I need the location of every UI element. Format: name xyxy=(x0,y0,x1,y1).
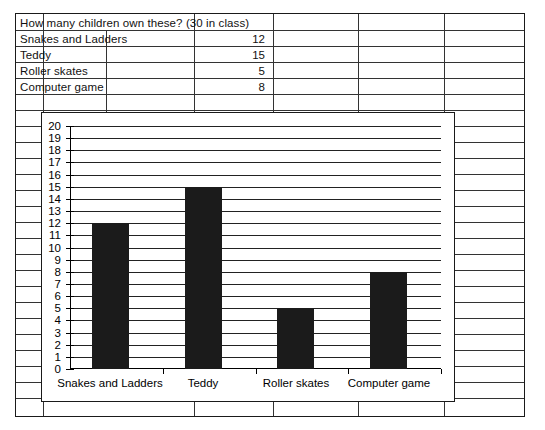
y-axis-tick-label: 4 xyxy=(55,315,61,327)
y-axis-tick-label: 5 xyxy=(55,303,61,315)
y-axis-tick: 19 xyxy=(66,138,74,139)
x-axis-category-label: Computer game xyxy=(348,377,430,389)
table-row-value: 12 xyxy=(180,33,265,45)
x-axis-tick xyxy=(163,369,164,374)
y-axis-tick-label: 3 xyxy=(55,328,61,340)
y-axis-tick: 3 xyxy=(66,333,74,334)
gridline xyxy=(70,150,441,151)
grid-row-line xyxy=(16,46,524,47)
y-axis-tick-label: 10 xyxy=(48,243,61,255)
y-axis-tick: 10 xyxy=(66,248,74,249)
grid-row-line xyxy=(16,30,524,31)
x-axis-category-label: Teddy xyxy=(188,377,219,389)
x-axis-tick xyxy=(348,369,349,374)
gridline xyxy=(70,187,441,188)
grid-row-line xyxy=(16,62,524,63)
grid-row-line xyxy=(16,78,524,79)
y-axis-tick-label: 13 xyxy=(48,206,61,218)
grid-row-line xyxy=(16,94,524,95)
gridline xyxy=(70,162,441,163)
y-axis-tick: 15 xyxy=(66,187,74,188)
y-axis-tick: 13 xyxy=(66,211,74,212)
y-axis-tick-label: 1 xyxy=(55,352,61,364)
y-axis-tick: 5 xyxy=(66,308,74,309)
y-axis-tick: 7 xyxy=(66,284,74,285)
y-axis-tick-label: 20 xyxy=(48,121,61,133)
worksheet-page: How many children own these? (30 in clas… xyxy=(0,0,545,430)
y-axis-tick: 2 xyxy=(66,345,74,346)
table-row-label: Roller skates xyxy=(20,65,88,77)
bar[interactable] xyxy=(277,308,314,369)
table-row-value: 15 xyxy=(180,49,265,61)
plot-area: 01234567891011121314151617181920 Snakes … xyxy=(70,126,441,369)
y-axis-tick-label: 17 xyxy=(48,157,61,169)
y-axis-tick: 0 xyxy=(66,369,74,370)
y-axis-tick: 1 xyxy=(66,357,74,358)
gridline xyxy=(70,126,441,127)
grid-row-line xyxy=(16,110,524,111)
y-axis-tick-label: 16 xyxy=(48,170,61,182)
gridline xyxy=(70,175,441,176)
y-axis-tick-label: 9 xyxy=(55,255,61,267)
y-axis-tick: 18 xyxy=(66,150,74,151)
gridline xyxy=(70,199,441,200)
x-axis-tick xyxy=(441,369,442,374)
y-axis-tick-label: 0 xyxy=(55,364,61,376)
table-row-value: 5 xyxy=(180,65,265,77)
y-axis-tick: 14 xyxy=(66,199,74,200)
table-row-label: Computer game xyxy=(20,81,104,93)
bar[interactable] xyxy=(185,187,222,369)
y-axis-tick: 9 xyxy=(66,260,74,261)
table-row-label: Teddy xyxy=(20,49,51,61)
x-axis-category-label: Roller skates xyxy=(263,377,329,389)
x-axis-tick xyxy=(256,369,257,374)
y-axis-tick-label: 11 xyxy=(49,230,61,242)
y-axis-tick-label: 2 xyxy=(55,340,61,352)
y-axis-tick: 17 xyxy=(66,162,74,163)
table-title: How many children own these? (30 in clas… xyxy=(20,17,249,29)
y-axis-tick-label: 19 xyxy=(48,133,61,145)
table-row-label: Snakes and Ladders xyxy=(20,33,127,45)
y-axis-tick: 11 xyxy=(66,235,74,236)
y-axis-tick-label: 14 xyxy=(48,194,61,206)
y-axis-tick: 4 xyxy=(66,320,74,321)
y-axis-tick-label: 18 xyxy=(48,145,61,157)
table-row-value: 8 xyxy=(180,81,265,93)
bar-chart-panel[interactable]: 01234567891011121314151617181920 Snakes … xyxy=(41,112,455,402)
y-axis-tick: 12 xyxy=(66,223,74,224)
y-axis-tick: 6 xyxy=(66,296,74,297)
y-axis-tick-label: 15 xyxy=(48,182,61,194)
x-axis-category-label: Snakes and Ladders xyxy=(57,377,163,389)
y-axis-tick-label: 12 xyxy=(48,218,61,230)
y-axis-tick: 16 xyxy=(66,175,74,176)
y-axis-tick: 20 xyxy=(66,126,74,127)
y-axis-tick-label: 8 xyxy=(55,267,61,279)
gridline xyxy=(70,138,441,139)
y-axis-tick: 8 xyxy=(66,272,74,273)
bar[interactable] xyxy=(370,272,407,369)
bar[interactable] xyxy=(92,223,129,369)
y-axis-tick-label: 6 xyxy=(55,291,61,303)
gridline xyxy=(70,211,441,212)
y-axis-tick-label: 7 xyxy=(55,279,61,291)
